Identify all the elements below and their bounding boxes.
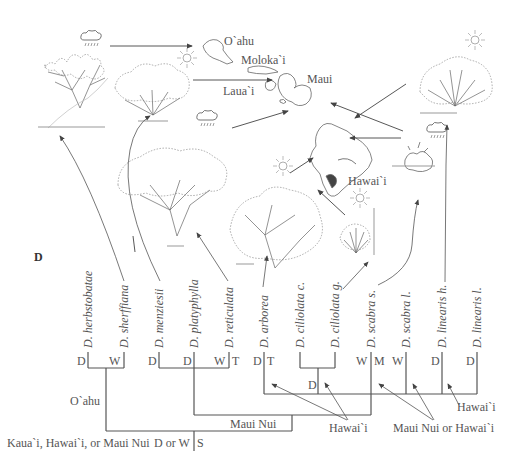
- state-label: W: [109, 355, 120, 367]
- plant-drawing-7: [420, 57, 492, 106]
- figure-panel-d: D O`ahu Moloka`i Maui Laua`i Hawai`i D. …: [0, 0, 517, 474]
- branch-label-oahu: O`ahu: [70, 395, 100, 407]
- island-kahoolawe: [280, 99, 286, 103]
- state-label: W: [392, 355, 403, 367]
- branch-label-hawaii: Hawai`i: [329, 422, 368, 434]
- species-label: D. reticulata: [223, 287, 235, 348]
- species-label: D. scabra s.: [365, 290, 377, 348]
- dispersal-arrows: [110, 46, 406, 252]
- plant-drawing-6: [405, 142, 433, 172]
- state-label: D: [148, 355, 157, 367]
- species-label: D. menziesii: [153, 289, 165, 348]
- state-label: D: [183, 355, 192, 367]
- species-label: D. ciliolata g.: [329, 281, 341, 348]
- state-label: D: [253, 355, 262, 367]
- sun-icon: [350, 188, 370, 208]
- branch-label-maui-nui-or-hawaii: Maui Nui or Hawai`i: [393, 422, 494, 434]
- state-label: D: [77, 355, 86, 367]
- state-label: W: [214, 355, 225, 367]
- island-lanai: [265, 80, 276, 90]
- island-molokai: [248, 66, 278, 74]
- island-label-hawaii: Hawai`i: [348, 175, 387, 187]
- island-label-lanai: Laua`i: [223, 85, 254, 97]
- plant-drawing-3: [118, 148, 227, 236]
- state-label: M: [374, 355, 385, 367]
- root-state-label: D or W: [154, 437, 190, 449]
- plant-drawing-1: [45, 54, 108, 128]
- island-label-oahu: O`ahu: [224, 35, 254, 47]
- rain-cloud-icon: [81, 30, 101, 46]
- island-label-maui: Maui: [307, 73, 332, 85]
- plant-drawing-5: [340, 224, 370, 253]
- plant-drawing-4: [230, 187, 322, 268]
- panel-label: D: [34, 250, 43, 265]
- state-label: D: [466, 355, 475, 367]
- state-label: D: [308, 379, 317, 391]
- species-label: D. herbstobatae: [82, 271, 94, 348]
- species-label: D. ciliolata c.: [294, 282, 306, 348]
- branch-label-maui-nui: Maui Nui: [230, 418, 276, 430]
- plant-drawing-2: [115, 64, 189, 115]
- sun-icon: [465, 30, 485, 50]
- rain-cloud-icon: [197, 110, 217, 126]
- state-label: W: [356, 355, 367, 367]
- species-label: D. arborea: [258, 295, 270, 348]
- species-label: D. linearis l.: [471, 287, 483, 348]
- root-location-label: Kaua`i, Hawai`i, or Maui Nui: [7, 437, 150, 449]
- rain-cloud-icon: [427, 122, 447, 138]
- island-label-molokai: Moloka`i: [241, 54, 286, 66]
- species-label: D. scabra l.: [400, 291, 412, 348]
- island-map: [203, 40, 311, 106]
- state-label: D: [431, 355, 440, 367]
- species-label: D. platyphylla: [188, 279, 200, 348]
- state-label: T: [232, 355, 239, 367]
- state-label: T: [267, 355, 274, 367]
- root-state-right-label: S: [197, 437, 204, 449]
- species-label: D. linearis h.: [436, 285, 448, 348]
- branch-label-hawaii-right: Hawai`i: [457, 401, 496, 413]
- species-label: D. sherffiana: [118, 285, 130, 348]
- species-to-drawing-arrows: [60, 116, 447, 289]
- sun-icon: [177, 48, 197, 68]
